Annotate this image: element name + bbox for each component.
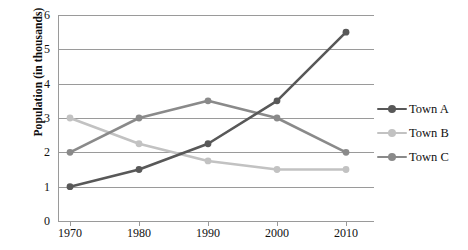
data-point-marker (67, 115, 74, 122)
y-axis-tick-label: 5 (26, 43, 50, 55)
legend-marker-icon (377, 151, 407, 163)
x-axis-tick-label: 1990 (178, 226, 238, 240)
legend-item-label: Town C (407, 150, 449, 165)
data-point-marker (136, 115, 143, 122)
y-axis-tick-label: 1 (26, 181, 50, 193)
x-axis-tick-label: 2000 (247, 226, 307, 240)
data-point-marker (343, 29, 350, 36)
y-axis-tick-label: 2 (26, 146, 50, 158)
data-point-marker (274, 97, 281, 104)
plot-area (58, 15, 374, 221)
x-axis-tick-label: 2010 (316, 226, 376, 240)
data-point-marker (205, 97, 212, 104)
line-chart-figure: Population (in thousands) 0123456 197019… (0, 0, 468, 250)
data-point-marker (274, 115, 281, 122)
data-series-layer (58, 15, 374, 221)
y-axis-tick-label: 3 (26, 112, 50, 124)
data-point-marker (343, 149, 350, 156)
data-point-marker (136, 166, 143, 173)
y-axis-tick-labels: 0123456 (26, 0, 50, 250)
x-axis-tick-label: 1980 (109, 226, 169, 240)
data-point-marker (343, 166, 350, 173)
y-axis-tick-label: 4 (26, 78, 50, 90)
legend-marker-icon (377, 127, 407, 139)
data-point-marker (205, 158, 212, 165)
data-point-marker (136, 140, 143, 147)
legend-marker-icon (377, 103, 407, 115)
legend-item-town-a[interactable]: Town A (377, 97, 465, 121)
x-axis-tick-labels: 19701980199020002010 (0, 226, 468, 244)
data-point-marker (205, 140, 212, 147)
y-axis-tick-label: 6 (26, 9, 50, 21)
data-point-marker (67, 149, 74, 156)
data-point-marker (274, 166, 281, 173)
x-axis-tick-label: 1970 (40, 226, 100, 240)
data-point-marker (67, 183, 74, 190)
legend-item-town-b[interactable]: Town B (377, 121, 465, 145)
chart-legend: Town ATown BTown C (377, 97, 465, 169)
legend-item-label: Town A (407, 102, 449, 117)
legend-item-town-c[interactable]: Town C (377, 145, 465, 169)
legend-item-label: Town B (407, 126, 449, 141)
